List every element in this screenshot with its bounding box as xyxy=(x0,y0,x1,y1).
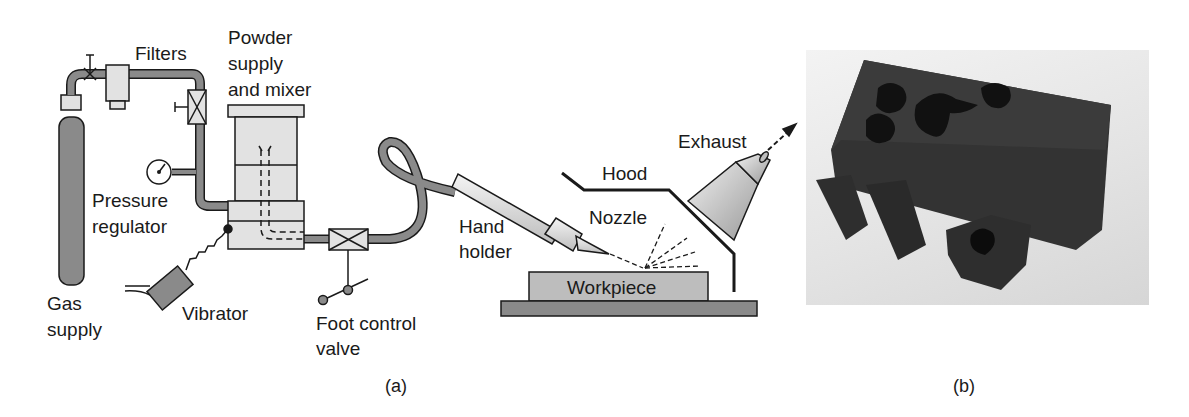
caption-b: (b) xyxy=(953,376,975,396)
label-exhaust: Exhaust xyxy=(678,131,747,152)
label-hand-1: Hand xyxy=(459,216,504,237)
label-foot-2: valve xyxy=(316,338,360,359)
label-pressure-1: Pressure xyxy=(92,190,168,211)
label-vibrator: Vibrator xyxy=(182,303,249,324)
label-filters: Filters xyxy=(135,43,187,64)
workpiece-photo xyxy=(806,50,1149,305)
label-pressure-2: regulator xyxy=(92,216,168,237)
label-workpiece: Workpiece xyxy=(567,277,656,298)
machined-block-illustration xyxy=(806,50,1149,305)
label-nozzle: Nozzle xyxy=(589,207,647,228)
regulator-valve xyxy=(175,90,206,124)
gas-cylinder xyxy=(59,95,84,285)
label-powder-3: and mixer xyxy=(228,79,312,100)
label-hand-2: holder xyxy=(459,241,512,262)
filter-unit xyxy=(106,65,129,109)
caption-a: (a) xyxy=(385,376,407,396)
label-powder-1: Powder xyxy=(228,27,293,48)
pressure-gauge-icon xyxy=(147,160,171,184)
label-foot-1: Foot control xyxy=(316,313,416,334)
label-gas-2: supply xyxy=(47,319,102,340)
label-hood: Hood xyxy=(602,163,647,184)
vibrator xyxy=(125,225,232,310)
label-gas-1: Gas xyxy=(47,293,82,314)
label-powder-2: supply xyxy=(228,53,283,74)
abrasive-jet xyxy=(610,224,700,268)
powder-mixer xyxy=(228,105,304,249)
